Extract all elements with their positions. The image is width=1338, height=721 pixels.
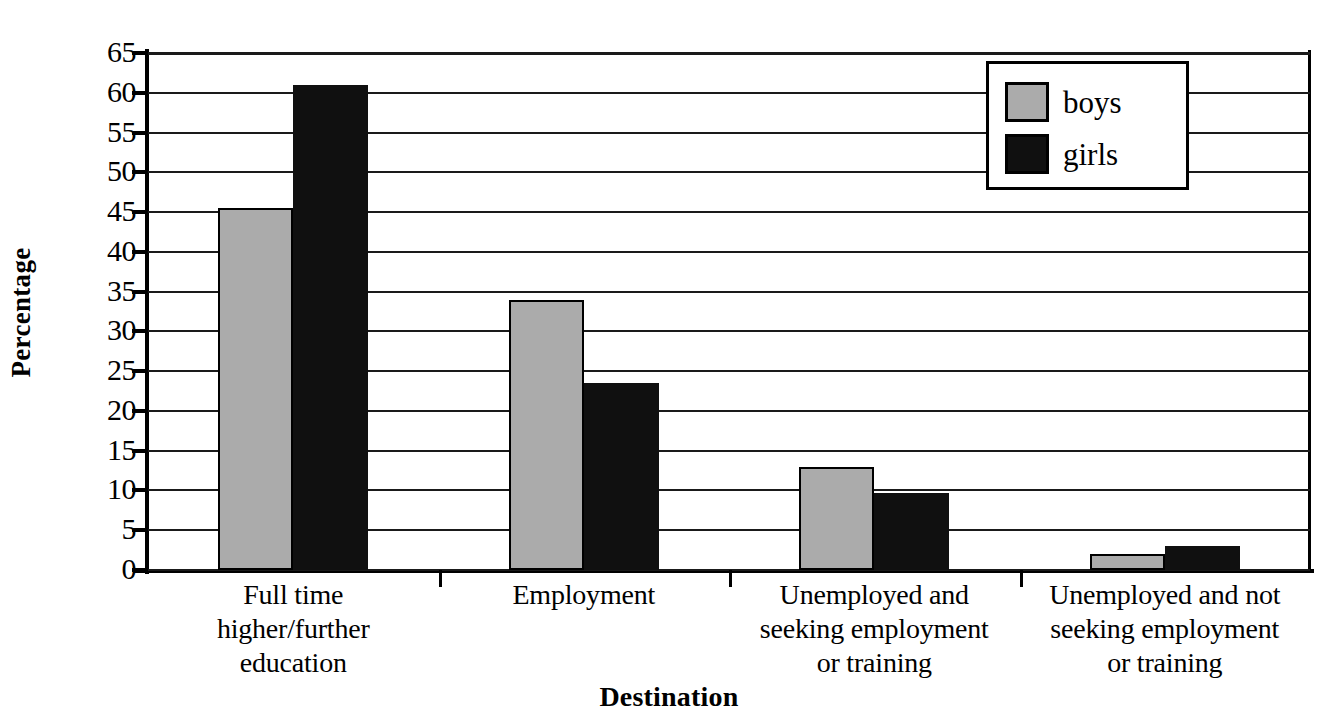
y-axis-tick <box>132 329 148 333</box>
bar-girls-3 <box>1165 546 1240 570</box>
y-axis-tick <box>132 250 148 254</box>
y-axis-tick-label: 50 <box>66 156 136 186</box>
category-label-line: or training <box>1000 646 1331 680</box>
legend-item-girls: girls <box>1005 128 1186 180</box>
y-axis-title-text: Percentage <box>7 247 38 377</box>
y-axis-tick-label: 60 <box>66 77 136 107</box>
y-axis-line <box>145 49 149 574</box>
bar-boys-1 <box>509 300 584 570</box>
bar-boys-2 <box>799 467 874 570</box>
y-axis-tick-label: 65 <box>66 37 136 67</box>
legend: boys girls <box>986 61 1189 190</box>
gridline <box>148 52 1310 55</box>
y-axis-tick <box>132 449 148 453</box>
y-axis-tick-labels: 65605550454035302520151050 <box>62 53 136 570</box>
x-axis-category-label: Unemployed and notseeking employmentor t… <box>1000 578 1331 680</box>
x-axis-category-label: Full timehigher/furthereducation <box>128 578 459 680</box>
y-axis-tick <box>132 409 148 413</box>
y-axis-tick <box>132 91 148 95</box>
category-label-line: seeking employment <box>1000 612 1331 646</box>
category-label-line: higher/further <box>128 612 459 646</box>
legend-item-boys: boys <box>1005 76 1186 128</box>
y-axis-tick <box>132 51 148 55</box>
y-axis-tick <box>132 568 148 572</box>
bar-girls-1 <box>584 383 659 570</box>
legend-label-boys: boys <box>1063 87 1122 118</box>
category-label-line: Employment <box>419 578 750 612</box>
y-axis-tick-label: 55 <box>66 117 136 147</box>
x-axis-category-label: Unemployed andseeking employmentor train… <box>709 578 1040 680</box>
plot-right-border <box>1308 50 1311 571</box>
y-axis-tick <box>132 170 148 174</box>
x-axis-category-labels: Full timehigher/furthereducationEmployme… <box>148 578 1338 678</box>
y-axis-tick <box>132 488 148 492</box>
y-axis-tick-label: 10 <box>66 474 136 504</box>
x-axis-category-label: Employment <box>419 578 750 612</box>
x-axis-title: Destination <box>0 681 1338 713</box>
legend-swatch-girls-icon <box>1005 134 1049 174</box>
bar-girls-2 <box>874 493 949 570</box>
category-label-line: Unemployed and not <box>1000 578 1331 612</box>
y-axis-tick-label: 35 <box>66 276 136 306</box>
y-axis-tick-label: 45 <box>66 196 136 226</box>
y-axis-title: Percentage <box>0 212 44 412</box>
legend-label-girls: girls <box>1063 139 1118 170</box>
bar-chart: Percentage 65605550454035302520151050 bo… <box>0 0 1338 721</box>
y-axis-tick <box>132 210 148 214</box>
y-axis-tick-label: 30 <box>66 315 136 345</box>
y-axis-tick-label: 5 <box>66 514 136 544</box>
category-label-line: education <box>128 646 459 680</box>
y-axis-tick-label: 40 <box>66 236 136 266</box>
y-axis-tick-label: 20 <box>66 395 136 425</box>
y-axis-tick-label: 15 <box>66 435 136 465</box>
bar-boys-0 <box>218 208 293 570</box>
category-label-line: or training <box>709 646 1040 680</box>
bar-girls-0 <box>293 85 368 570</box>
bar-boys-3 <box>1090 554 1165 570</box>
category-label-line: Unemployed and <box>709 578 1040 612</box>
category-label-line: Full time <box>128 578 459 612</box>
y-axis-tick <box>132 290 148 294</box>
category-label-line: seeking employment <box>709 612 1040 646</box>
y-axis-tick <box>132 528 148 532</box>
y-axis-tick <box>132 131 148 135</box>
y-axis-tick-label: 0 <box>66 554 136 584</box>
y-axis-tick-label: 25 <box>66 355 136 385</box>
y-axis-tick <box>132 369 148 373</box>
legend-swatch-boys-icon <box>1005 82 1049 122</box>
